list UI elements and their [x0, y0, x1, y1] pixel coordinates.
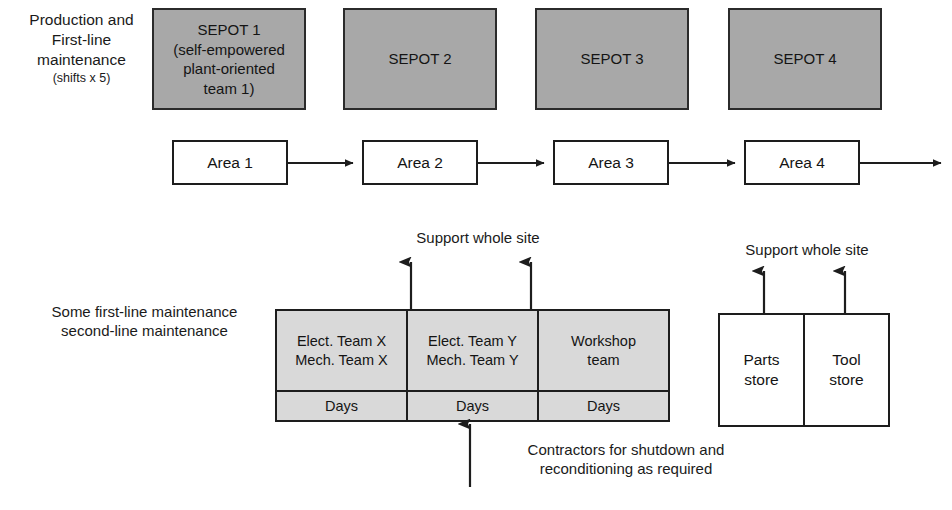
sepot-1-box[interactable]: SEPOT 1 (self-empowered plant-oriented t… [152, 8, 306, 110]
team-x-cell[interactable]: Elect. Team X Mech. Team X [277, 311, 406, 390]
team-y-shift-cell[interactable]: Days [406, 392, 537, 420]
sepot-2-box[interactable]: SEPOT 2 [343, 8, 497, 110]
stores-box: Parts store Tool store [718, 313, 890, 427]
maintenance-row-label: Some first-line maintenance second-line … [22, 302, 267, 340]
sepot-3-box[interactable]: SEPOT 3 [535, 8, 689, 110]
maintenance-teams-table: Elect. Team X Mech. Team X Elect. Team Y… [275, 309, 670, 422]
area-1-box[interactable]: Area 1 [172, 140, 288, 185]
workshop-team-shift-cell[interactable]: Days [537, 392, 668, 420]
team-x-shift-cell[interactable]: Days [277, 392, 406, 420]
contractors-note: Contractors for shutdown and recondition… [476, 440, 776, 478]
parts-store-cell[interactable]: Parts store [720, 315, 803, 425]
team-names-row: Elect. Team X Mech. Team X Elect. Team Y… [277, 311, 668, 392]
sepot-4-box[interactable]: SEPOT 4 [728, 8, 882, 110]
area-4-box[interactable]: Area 4 [744, 140, 860, 185]
support-whole-site-label-right: Support whole site [702, 240, 912, 259]
team-shifts-row: Days Days Days [277, 392, 668, 420]
tool-store-cell[interactable]: Tool store [803, 315, 888, 425]
production-row-label: Production and First-line maintenance [14, 10, 149, 69]
production-row-sublabel: (shifts x 5) [14, 70, 149, 86]
area-3-box[interactable]: Area 3 [553, 140, 669, 185]
area-2-box[interactable]: Area 2 [362, 140, 478, 185]
workshop-team-cell[interactable]: Workshop team [537, 311, 668, 390]
organisation-diagram: Production and First-line maintenance (s… [0, 0, 952, 510]
support-whole-site-label-left: Support whole site [363, 228, 593, 247]
team-y-cell[interactable]: Elect. Team Y Mech. Team Y [406, 311, 537, 390]
